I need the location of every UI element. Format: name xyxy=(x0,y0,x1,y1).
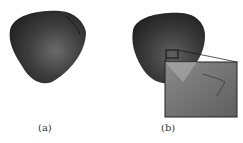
panel-label-a: (a) xyxy=(38,122,52,133)
surface-render-a xyxy=(0,0,122,143)
panel-label-b: (b) xyxy=(161,122,175,133)
panel-b: (b) xyxy=(121,0,243,143)
surface-render-b xyxy=(121,0,243,143)
panel-a: (a) xyxy=(0,0,122,143)
